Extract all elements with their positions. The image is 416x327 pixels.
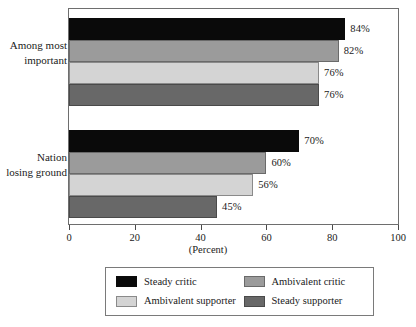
bar-row: 60%: [69, 152, 398, 174]
x-axis-tick: [135, 225, 136, 230]
category-label-nation-losing-ground: Nation losing ground: [0, 150, 67, 180]
legend-grid: Steady criticAmbivalent criticAmbivalent…: [106, 268, 373, 315]
bar-value-label: 84%: [350, 21, 370, 37]
x-axis-tick: [201, 225, 202, 230]
bar-value-label: 70%: [304, 133, 324, 149]
bar-ambivalent-critic: [69, 152, 266, 174]
legend-swatch-icon: [244, 296, 265, 307]
category-label-line-1: Nation: [0, 150, 67, 165]
plot-area: 84%82%76%76% 70%60%56%45%: [69, 9, 398, 224]
bar-row: 70%: [69, 130, 398, 152]
bar-row: 82%: [69, 40, 398, 62]
bar-row: 84%: [69, 18, 398, 40]
legend-swatch-icon: [244, 276, 265, 287]
category-label-line-2: losing ground: [0, 165, 67, 180]
bar-value-label: 76%: [324, 87, 344, 103]
legend-item[interactable]: Steady supporter: [244, 294, 366, 308]
x-axis-tick: [266, 225, 267, 230]
legend-label: Steady critic: [144, 275, 197, 289]
bar-value-label: 56%: [258, 177, 278, 193]
legend-item[interactable]: Ambivalent supporter: [116, 294, 238, 308]
bar-row: 76%: [69, 62, 398, 84]
bar-steady-critic: [69, 18, 345, 40]
category-label-line-1: Among most: [0, 38, 67, 53]
legend-label: Ambivalent supporter: [144, 294, 236, 308]
legend-swatch-icon: [116, 276, 137, 287]
legend-label: Steady supporter: [272, 294, 343, 308]
bar-ambivalent-critic: [69, 40, 339, 62]
legend-swatch-icon: [116, 296, 137, 307]
category-label-line-2: important: [0, 53, 67, 68]
bar-steady-critic: [69, 130, 299, 152]
x-axis-tick: [69, 225, 70, 230]
bar-value-label: 82%: [344, 43, 364, 59]
legend-item[interactable]: Steady critic: [116, 275, 238, 289]
bar-value-label: 76%: [324, 65, 344, 81]
horizontal-bar-chart: Among most important Nation losing groun…: [0, 0, 416, 327]
bar-row: 56%: [69, 174, 398, 196]
bar-steady-supporter: [69, 84, 319, 106]
bar-group-nation-losing-ground: 70%60%56%45%: [69, 130, 398, 218]
x-axis-title: (Percent): [0, 243, 416, 257]
bar-row: 45%: [69, 196, 398, 218]
bar-ambivalent-supporter: [69, 62, 319, 84]
category-label-among-most-important: Among most important: [0, 38, 67, 68]
legend: Steady criticAmbivalent criticAmbivalent…: [105, 267, 374, 316]
legend-item[interactable]: Ambivalent critic: [244, 275, 366, 289]
bar-value-label: 45%: [222, 199, 242, 215]
legend-label: Ambivalent critic: [272, 275, 346, 289]
bar-value-label: 60%: [271, 155, 291, 171]
bar-group-among-most-important: 84%82%76%76%: [69, 18, 398, 106]
bar-ambivalent-supporter: [69, 174, 253, 196]
bar-steady-supporter: [69, 196, 217, 218]
x-axis-tick: [332, 225, 333, 230]
bar-row: 76%: [69, 84, 398, 106]
x-axis-tick: [398, 225, 399, 230]
